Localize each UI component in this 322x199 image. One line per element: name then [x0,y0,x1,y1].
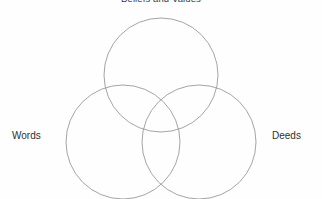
venn-diagram-canvas: Beliefs and Values Words Deeds [0,0,322,199]
venn-circles-group [0,0,322,199]
venn-circle-deeds[interactable] [142,85,256,199]
venn-circle-beliefs-and-values[interactable] [104,18,218,132]
venn-label-words: Words [12,130,41,142]
venn-circle-words[interactable] [66,85,180,199]
venn-label-deeds: Deeds [272,130,301,142]
